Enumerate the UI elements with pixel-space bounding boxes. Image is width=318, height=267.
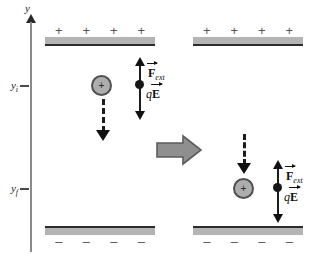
y-axis-line: [30, 22, 32, 252]
plus-sign: +: [258, 24, 266, 37]
bottom-plate-signs-initial: – – – –: [45, 235, 155, 248]
minus-sign: –: [138, 235, 145, 248]
motion-arrow-head-final: [237, 163, 251, 174]
plus-sign: +: [230, 24, 238, 37]
plus-sign: +: [110, 24, 118, 37]
minus-sign: –: [83, 235, 90, 248]
top-plate-final: [193, 37, 303, 46]
force-ext-symbol: F: [148, 66, 155, 80]
panel-initial: + + + +: [45, 24, 155, 46]
minus-sign: –: [110, 235, 117, 248]
minus-sign: –: [203, 235, 210, 248]
charge-particle-final: +: [233, 178, 254, 199]
top-plate-initial: [45, 37, 155, 46]
physics-diagram-canvas: y yi yf + + + + – – – – +: [0, 0, 318, 267]
plus-sign: +: [55, 24, 63, 37]
y-axis-label: y: [25, 2, 30, 14]
y-final-label-sub: f: [16, 188, 18, 197]
minus-sign: –: [286, 235, 293, 248]
force-ext-symbol: F: [286, 169, 293, 183]
bottom-plate-group-initial: – – – –: [45, 226, 155, 248]
panel-final: + + + +: [193, 24, 303, 46]
charge-particle-initial: +: [91, 75, 112, 96]
force-qE-arrowhead-icon: [273, 214, 283, 223]
plus-sign: +: [203, 24, 211, 37]
y-initial-label-sub: i: [16, 85, 18, 94]
y-initial-tick: [20, 85, 29, 87]
force-qE-arrowhead-icon: [135, 111, 145, 120]
motion-arrow-stem-initial: [102, 99, 105, 132]
right-arrow-icon: [155, 134, 203, 166]
top-plate-signs-final: + + + +: [193, 24, 303, 37]
y-final-tick: [20, 188, 29, 190]
force-application-point: [135, 80, 144, 89]
force-qE-label: qE: [284, 191, 298, 204]
plus-sign: +: [82, 24, 90, 37]
force-qE-label: qE: [146, 88, 160, 101]
force-application-point: [273, 183, 282, 192]
force-qE-symbol: E: [290, 190, 298, 204]
minus-sign: –: [231, 235, 238, 248]
top-plate-signs-initial: + + + +: [45, 24, 155, 37]
motion-arrow-head-initial: [96, 130, 110, 141]
transition-arrow: [155, 134, 203, 170]
y-initial-label: yi: [0, 79, 18, 96]
particle-charge-sign: +: [241, 184, 247, 194]
minus-sign: –: [258, 235, 265, 248]
bottom-plate-signs-final: – – – –: [193, 235, 303, 248]
minus-sign: –: [55, 235, 62, 248]
y-final-label: yf: [0, 182, 18, 199]
force-qE-symbol: E: [152, 87, 160, 101]
particle-charge-sign: +: [99, 81, 105, 91]
motion-arrow-stem-final: [243, 134, 246, 165]
plus-sign: +: [285, 24, 293, 37]
bottom-plate-group-final: – – – –: [193, 226, 303, 248]
plus-sign: +: [137, 24, 145, 37]
